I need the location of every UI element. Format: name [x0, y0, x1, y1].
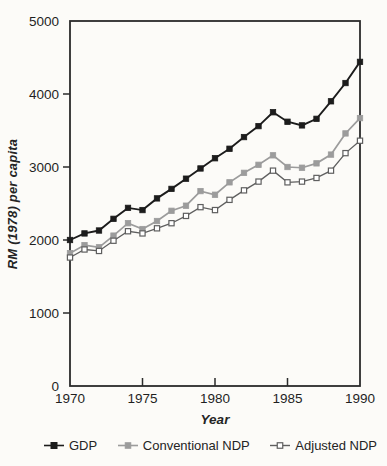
adjusted-ndp-marker	[270, 168, 275, 173]
adjusted-ndp-marker	[285, 180, 290, 185]
adjusted-ndp-marker	[169, 221, 174, 226]
gdp-line	[70, 62, 360, 240]
adjusted-ndp-marker	[67, 255, 72, 260]
conventional-ndp-marker	[241, 170, 246, 175]
legend-label-conventional-ndp: Conventional NDP	[143, 438, 250, 453]
gdp-marker	[299, 123, 304, 128]
legend: GDP Conventional NDP Adjusted NDP	[44, 438, 377, 453]
y-tick-label: 2000	[29, 233, 59, 248]
gdp-marker	[198, 166, 203, 171]
adjusted-ndp-marker	[125, 229, 130, 234]
legend-square	[51, 443, 57, 449]
conventional-ndp-marker	[212, 192, 217, 197]
conventional-ndp-marker	[299, 165, 304, 170]
conventional-ndp-marker	[125, 221, 130, 226]
adjusted-ndp-marker	[299, 179, 304, 184]
x-tick-label: 1990	[345, 391, 375, 406]
legend-label-gdp: GDP	[69, 438, 97, 453]
adjusted-ndp-open-square-marker-icon	[270, 441, 290, 450]
adjusted-ndp-marker	[96, 248, 101, 253]
legend-label-adjusted-ndp: Adjusted NDP	[295, 438, 377, 453]
y-tick-label: 5000	[29, 14, 59, 29]
adjusted-ndp-marker	[357, 138, 362, 143]
adjusted-ndp-marker	[154, 226, 159, 231]
gdp-marker	[328, 99, 333, 104]
chart-figure: 0100020003000400050001970197519801985199…	[0, 0, 387, 466]
gdp-marker	[125, 205, 130, 210]
conventional-ndp-marker	[169, 208, 174, 213]
gdp-marker	[270, 110, 275, 115]
y-tick-label: 1000	[29, 306, 59, 321]
conventional-ndp-filled-square-marker-icon	[118, 441, 138, 450]
gdp-marker	[212, 156, 217, 161]
conventional-ndp-marker	[154, 218, 159, 223]
gdp-marker	[227, 146, 232, 151]
y-tick-label: 3000	[29, 160, 59, 175]
adjusted-ndp-marker	[111, 238, 116, 243]
gdp-marker	[183, 176, 188, 181]
adjusted-ndp-marker	[198, 205, 203, 210]
conventional-ndp-marker	[227, 180, 232, 185]
legend-item-gdp: GDP	[44, 438, 97, 453]
gdp-marker	[67, 237, 72, 242]
x-tick-label: 1985	[272, 391, 302, 406]
y-axis-title: RM (1978) per capita	[5, 114, 23, 294]
adjusted-ndp-marker	[212, 207, 217, 212]
x-tick-label: 1970	[55, 391, 85, 406]
gdp-marker	[140, 207, 145, 212]
plot-frame	[70, 21, 360, 386]
conventional-ndp-marker	[285, 164, 290, 169]
conventional-ndp-marker	[270, 153, 275, 158]
adjusted-ndp-marker	[328, 168, 333, 173]
legend-item-adjusted-ndp: Adjusted NDP	[270, 438, 377, 453]
gdp-marker	[343, 80, 348, 85]
gdp-marker	[285, 119, 290, 124]
adjusted-ndp-marker	[140, 231, 145, 236]
gdp-marker	[241, 134, 246, 139]
gdp-marker	[96, 228, 101, 233]
chart-plot-area: 0100020003000400050001970197519801985199…	[0, 0, 387, 466]
conventional-ndp-marker	[357, 115, 362, 120]
legend-square	[125, 443, 131, 449]
conventional-ndp-marker	[343, 131, 348, 136]
adjusted-ndp-marker	[256, 179, 261, 184]
conventional-ndp-marker	[314, 161, 319, 166]
gdp-marker	[82, 231, 87, 236]
gdp-marker	[314, 116, 319, 121]
conventional-ndp-marker	[183, 203, 188, 208]
y-tick-label: 4000	[29, 87, 59, 102]
gdp-filled-square-marker-icon	[44, 441, 64, 450]
gdp-marker	[169, 186, 174, 191]
conventional-ndp-marker	[198, 188, 203, 193]
gdp-marker	[154, 196, 159, 201]
adjusted-ndp-marker	[314, 175, 319, 180]
gdp-marker	[111, 216, 116, 221]
adjusted-ndp-marker	[241, 188, 246, 193]
x-tick-label: 1980	[200, 391, 230, 406]
legend-square	[278, 443, 284, 449]
adjusted-ndp-marker	[183, 213, 188, 218]
conventional-ndp-marker	[328, 152, 333, 157]
gdp-marker	[256, 123, 261, 128]
adjusted-ndp-marker	[227, 197, 232, 202]
adjusted-ndp-marker	[343, 151, 348, 156]
conventional-ndp-marker	[256, 162, 261, 167]
conventional-ndp-marker	[111, 233, 116, 238]
adjusted-ndp-marker	[82, 247, 87, 252]
x-axis-title: Year	[165, 412, 265, 427]
gdp-marker	[357, 59, 362, 64]
legend-item-conventional-ndp: Conventional NDP	[118, 438, 250, 453]
x-tick-label: 1975	[127, 391, 157, 406]
